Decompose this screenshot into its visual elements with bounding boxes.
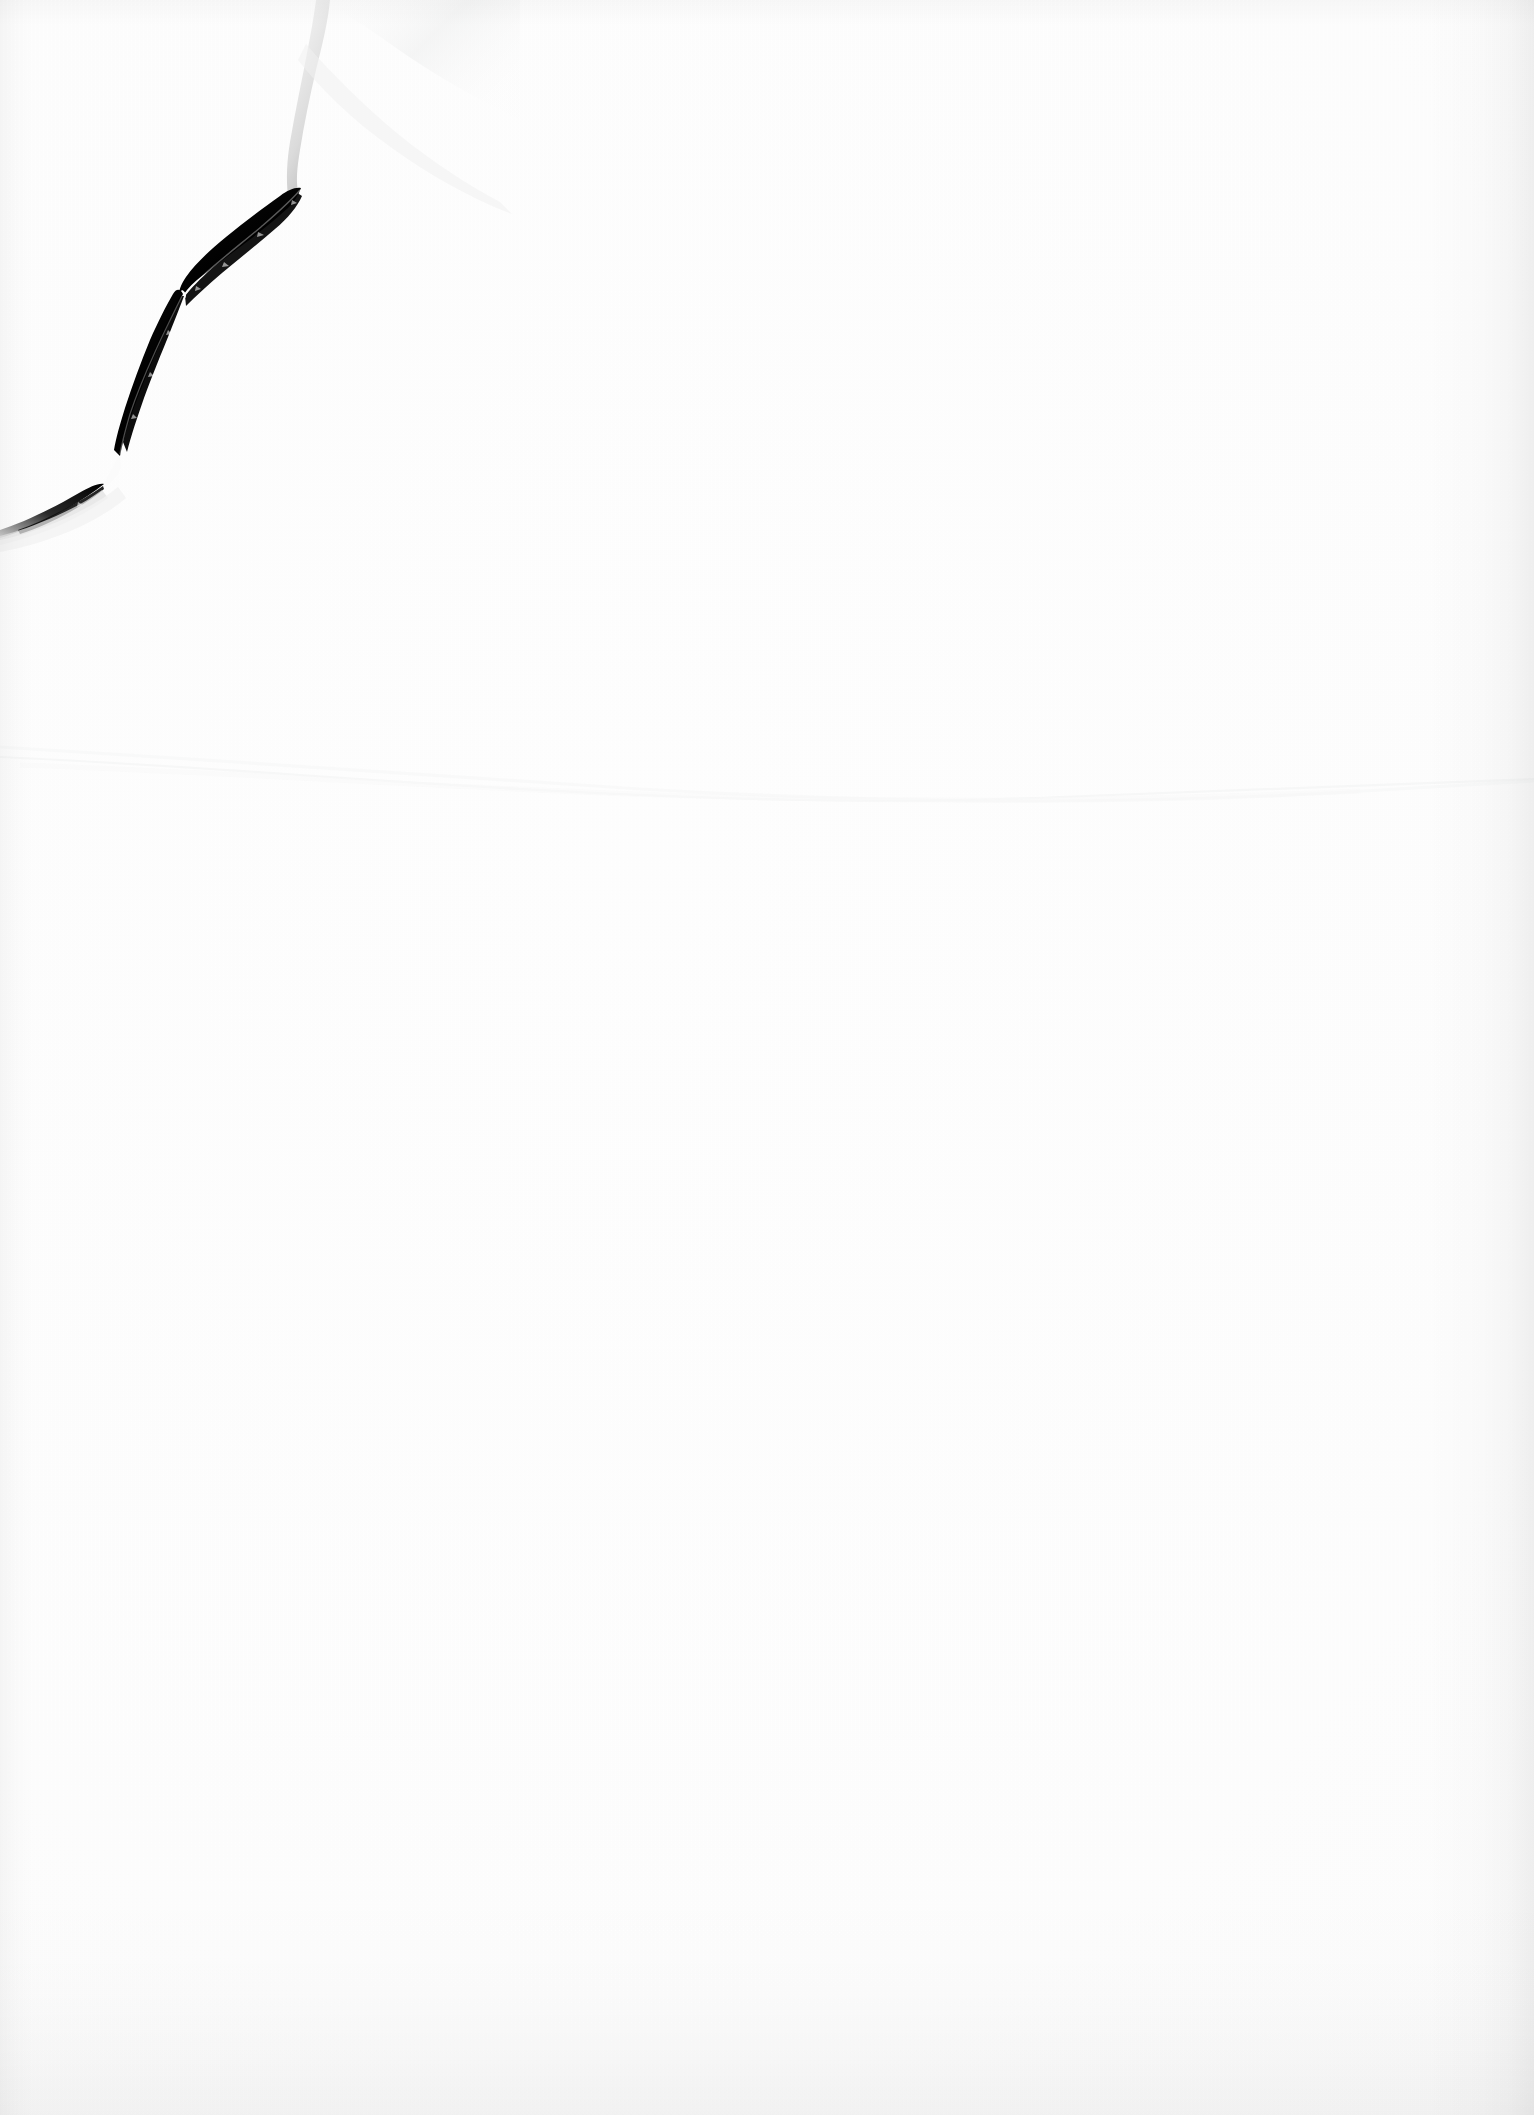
paper-grain-texture: [0, 0, 1534, 2115]
scanned-page: [0, 0, 1534, 2115]
